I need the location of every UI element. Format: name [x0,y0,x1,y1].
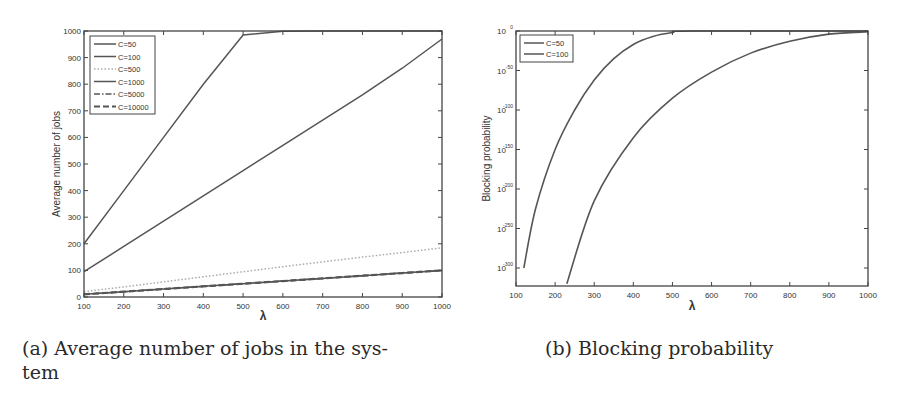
series-line-C=100 [567,32,868,284]
caption-b-line1: (b) Blocking probability [545,336,773,360]
x-tick-label: 600 [705,291,719,300]
x-tick-label: 200 [117,302,131,311]
x-tick-label: 600 [276,302,290,311]
chart-a: 1002003004005006007008009001000010020030… [0,0,460,330]
y-tick-label: 400 [68,187,82,196]
x-tick-label: 800 [783,291,797,300]
y-tick-label: 0 [77,293,82,302]
y-tick-label: 300 [68,213,82,222]
x-tick-label: 900 [822,291,836,300]
y-tick-label: 600 [68,133,82,142]
x-tick-label: 400 [197,302,211,311]
legend-label: C=5000 [118,90,144,99]
x-tick-label: 300 [588,291,602,300]
x-tick-label: 400 [627,291,641,300]
x-tick-label: 100 [509,291,523,300]
y-axis-label: Blocking probability [481,115,492,201]
series-line-C=50 [524,31,868,268]
y-tick-label: 1000 [63,27,81,36]
y-tick-label: 800 [68,80,82,89]
x-axis-label: λ [260,309,267,323]
x-tick-label: 500 [236,302,250,311]
legend-label: C=100 [118,53,140,62]
x-axis-label: λ [689,299,696,313]
y-tick-exponent: -150 [503,143,513,149]
y-tick-label: 500 [68,160,82,169]
y-tick-exponent: -300 [503,261,513,267]
legend-label: C=500 [118,65,140,74]
y-tick-exponent: 0 [510,24,513,30]
y-axis-label: Average number of jobs [51,111,62,217]
y-tick-exponent: -50 [506,64,513,70]
legend-label: C=1000 [118,78,144,87]
x-tick-label: 700 [316,302,330,311]
y-tick-exponent: -100 [503,103,513,109]
chart-b-plot: 100200300400500600700800900100010010-501… [460,0,923,330]
y-tick-label: 10 [497,27,506,36]
x-tick-label: 1000 [433,302,451,311]
plot-frame [516,31,868,286]
caption-b: (b) Blocking probability [545,336,773,360]
x-tick-label: 700 [744,291,758,300]
chart-a-plot: 1002003004005006007008009001000010020030… [0,0,460,330]
y-tick-exponent: -200 [503,182,513,188]
legend-label: C=50 [546,39,564,48]
x-tick-label: 200 [548,291,562,300]
y-tick-exponent: -250 [503,222,513,228]
caption-a: (a) Average number of jobs in the sys- t… [22,336,388,384]
x-tick-label: 900 [396,302,410,311]
x-tick-label: 800 [356,302,370,311]
x-tick-label: 300 [157,302,171,311]
y-tick-label: 900 [68,54,82,63]
y-tick-label: 100 [68,266,82,275]
legend-label: C=100 [546,50,568,59]
x-tick-label: 500 [666,291,680,300]
x-tick-label: 1000 [859,291,877,300]
legend-label: C=10000 [118,103,149,112]
legend-label: C=50 [118,40,136,49]
caption-a-line1: (a) Average number of jobs in the sys- [22,336,388,360]
y-tick-label: 700 [68,107,82,116]
series-line-C=500 [84,248,442,292]
chart-b: 100200300400500600700800900100010010-501… [460,0,923,330]
x-tick-label: 100 [77,302,91,311]
caption-a-line2: tem [22,360,388,384]
y-tick-label: 200 [68,240,82,249]
